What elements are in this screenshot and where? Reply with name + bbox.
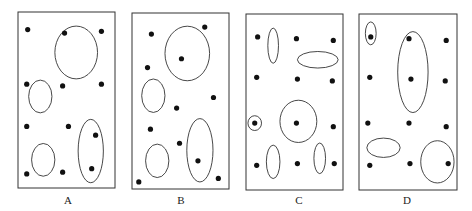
dot (331, 124, 336, 129)
dot (66, 124, 71, 129)
dot (332, 161, 337, 166)
dot (89, 166, 94, 171)
panel-b: B (132, 13, 229, 206)
dot (60, 170, 65, 175)
dot (295, 77, 300, 82)
dot (202, 24, 207, 29)
diagram: A B C D (0, 0, 472, 211)
dot (294, 36, 299, 41)
dot (174, 105, 179, 110)
panel-frame (246, 14, 343, 190)
dot (294, 121, 299, 126)
panel-frame (18, 12, 115, 188)
dot (254, 163, 259, 168)
dot (216, 176, 221, 181)
dot (444, 38, 449, 43)
dot (367, 163, 372, 168)
dot (254, 75, 259, 80)
dot (145, 65, 150, 70)
dot (444, 124, 449, 129)
dot (177, 141, 182, 146)
dot (408, 77, 413, 82)
dot (211, 95, 216, 100)
dot (446, 161, 451, 166)
dot (365, 121, 370, 126)
panel-label: B (177, 194, 184, 206)
dot (149, 32, 154, 37)
dot (368, 34, 373, 39)
panel-label: D (403, 194, 411, 206)
dot (99, 29, 104, 34)
dot (62, 31, 67, 36)
dot (195, 158, 200, 163)
dot (25, 27, 30, 32)
dot (136, 179, 141, 184)
dot (99, 82, 104, 87)
dot (24, 82, 29, 87)
dot (255, 34, 260, 39)
panel-label: A (64, 194, 72, 206)
dot (93, 133, 98, 138)
dot (367, 75, 372, 80)
panel-d: D (359, 14, 457, 206)
dot (24, 171, 29, 176)
dot (252, 121, 257, 126)
dot (331, 38, 336, 43)
dot (179, 56, 184, 61)
dot (295, 161, 300, 166)
dot (24, 124, 29, 129)
panel-frame (132, 13, 229, 189)
dot (330, 78, 335, 83)
dot (148, 127, 153, 132)
dot (407, 161, 412, 166)
panel-c: C (246, 14, 343, 206)
panel-a: A (18, 12, 115, 206)
dot (406, 36, 411, 41)
panel-label: C (295, 194, 302, 206)
dot (406, 121, 411, 126)
dot (443, 78, 448, 83)
dot (60, 83, 65, 88)
